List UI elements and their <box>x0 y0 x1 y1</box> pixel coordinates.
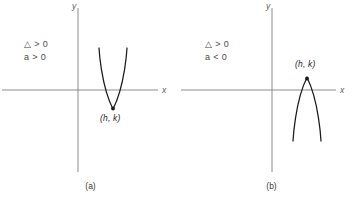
vertex-label: (h, k) <box>295 60 316 69</box>
quadratic-graphs-figure: y x △ > 0 a > 0 (h, k) (a) y x △ > 0 a <… <box>0 0 362 199</box>
x-axis-label: x <box>162 86 166 95</box>
condition-leading-coefficient: a > 0 <box>24 51 48 64</box>
condition-leading-coefficient: a < 0 <box>205 51 229 64</box>
panel-b-plot <box>181 0 362 199</box>
parabola-curve-downward <box>293 78 321 142</box>
vertex-dot <box>305 77 309 81</box>
x-axis-label: x <box>340 86 344 95</box>
panel-caption-b: (b) <box>181 181 362 191</box>
y-axis-label: y <box>266 2 270 11</box>
condition-block: △ > 0 a > 0 <box>24 38 48 64</box>
parabola-curve-upward <box>99 48 127 109</box>
panel-a-plot <box>0 0 181 199</box>
y-axis-label: y <box>72 2 76 11</box>
condition-discriminant: △ > 0 <box>24 38 48 51</box>
panel-caption-a: (a) <box>0 181 181 191</box>
panel-a: y x △ > 0 a > 0 (h, k) (a) <box>0 0 181 199</box>
condition-discriminant: △ > 0 <box>205 38 229 51</box>
panel-b: y x △ > 0 a < 0 (h, k) (b) <box>181 0 362 199</box>
vertex-label: (h, k) <box>100 114 121 123</box>
vertex-dot <box>111 107 115 111</box>
condition-block: △ > 0 a < 0 <box>205 38 229 64</box>
